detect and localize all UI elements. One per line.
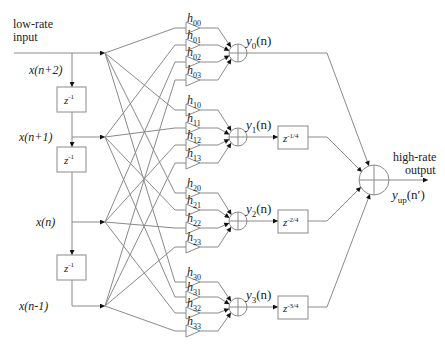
filter-to-sum-line	[200, 139, 229, 145]
filter-to-sum-line	[200, 28, 231, 47]
filter-to-sum-line	[200, 227, 231, 247]
tap-label: x(n+1)	[18, 130, 52, 144]
tap-label: x(n-1)	[18, 299, 48, 313]
filter-to-sum-line	[200, 143, 231, 163]
filter-to-sum-line	[200, 56, 229, 62]
filter-to-sum-line	[200, 282, 231, 301]
tap-label: x(n+2)	[28, 63, 62, 77]
polyphase-interpolator-diagram: low-rate input high-rate output z-1z-1z-…	[0, 0, 445, 356]
branch-output-label-1: y1(n)	[244, 117, 271, 135]
fanout-line	[105, 53, 186, 110]
fanout-line	[105, 247, 186, 306]
filter-to-sum-line	[200, 223, 229, 228]
fanout-line	[105, 145, 186, 222]
branch-output-label-0: y0(n)	[244, 33, 271, 51]
tap-label: x(n)	[35, 215, 55, 229]
input-label-line1: low-rate	[13, 17, 53, 31]
output-label-line1: high-rate	[393, 150, 436, 164]
output-signal-label: yup(n′)	[390, 187, 425, 205]
fanout-line	[105, 137, 186, 210]
branch-output-label-3: y3(n)	[244, 287, 271, 305]
filter-to-sum-line	[200, 128, 229, 134]
filter-to-sum-line	[200, 210, 230, 218]
filter-to-sum-line	[200, 45, 229, 51]
fanout-line	[105, 45, 186, 137]
input-label-line2: input	[13, 30, 38, 44]
delay-to-output-line	[308, 187, 361, 221]
filter-to-sum-line	[200, 297, 229, 304]
fanout-line	[105, 53, 186, 193]
output-label-line2: output	[405, 163, 436, 177]
delay-out-line	[72, 280, 105, 306]
fanout-line	[105, 306, 186, 331]
filter-to-sum-line	[200, 313, 231, 331]
fanout-line	[105, 28, 186, 53]
fanout-line	[105, 137, 186, 297]
filter-to-sum-line	[200, 309, 229, 313]
delay-to-output-line	[308, 137, 362, 172]
delay-to-output-line	[308, 194, 370, 307]
filter-to-sum-line	[200, 193, 231, 215]
branch-output-label-2: y2(n)	[244, 201, 271, 219]
